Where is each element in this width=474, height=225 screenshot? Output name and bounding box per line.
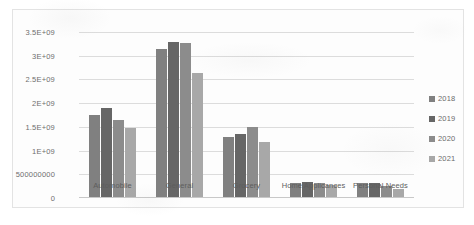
- chart-frame: 3.5E+093E+092.5E+092E+091.5E+091E+095000…: [12, 9, 464, 208]
- legend-item[interactable]: 2021: [429, 154, 456, 163]
- bar-group: [146, 32, 213, 198]
- legend-label: 2020: [438, 134, 456, 143]
- x-axis-category-label: General: [146, 181, 213, 190]
- legend-label: 2018: [438, 94, 456, 103]
- bar: [168, 42, 179, 199]
- y-axis-tick-label: 1E+09: [0, 146, 55, 155]
- y-axis-tick-label: 2.5E+09: [0, 75, 55, 84]
- x-axis-category-label: Grocery: [213, 181, 280, 190]
- y-axis-tick-label: 2E+09: [0, 99, 55, 108]
- x-axis-category-label: Automobile: [79, 181, 146, 190]
- x-axis-category-label: Personal Needs: [347, 181, 414, 190]
- x-axis-line: [79, 197, 414, 198]
- legend-item[interactable]: 2018: [429, 94, 456, 103]
- chart-legend: 2018201920202021: [429, 94, 456, 163]
- legend-label: 2019: [438, 114, 456, 123]
- legend-item[interactable]: 2020: [429, 134, 456, 143]
- y-axis-tick-label: 3E+09: [0, 51, 55, 60]
- legend-swatch-icon: [429, 136, 435, 142]
- legend-label: 2021: [438, 154, 456, 163]
- bar: [156, 49, 167, 198]
- bar-group: [79, 32, 146, 198]
- y-axis-tick-label: 500000000: [0, 170, 55, 179]
- bar-group: [280, 32, 347, 198]
- y-axis-tick-label: 0: [0, 194, 55, 203]
- y-axis-tick-label: 3.5E+09: [0, 28, 55, 37]
- y-axis-tick-label: 1.5E+09: [0, 122, 55, 131]
- bar-group: [347, 32, 414, 198]
- bar: [192, 73, 203, 198]
- legend-item[interactable]: 2019: [429, 114, 456, 123]
- legend-swatch-icon: [429, 116, 435, 122]
- legend-swatch-icon: [429, 156, 435, 162]
- bar-group: [213, 32, 280, 198]
- x-axis-category-label: Home Applicances: [280, 181, 347, 190]
- bar: [180, 43, 191, 198]
- plot-area: [79, 32, 414, 198]
- legend-swatch-icon: [429, 96, 435, 102]
